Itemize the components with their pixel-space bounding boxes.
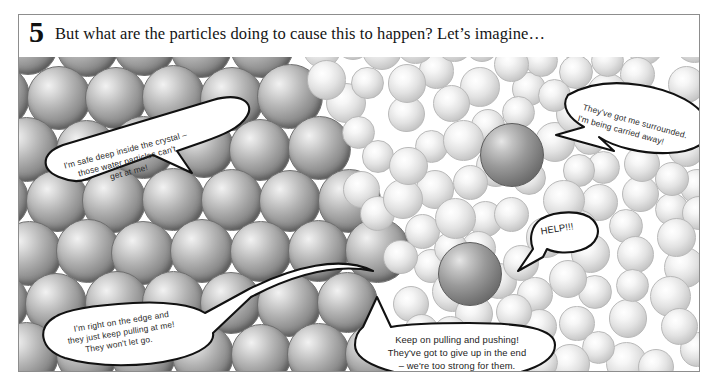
panel-caption: But what are the particles doing to caus… [55,24,545,44]
bubble-line: – we're too strong for them. [399,360,516,371]
bubble-line: Keep on pulling and pushing! [395,334,519,345]
comic-page: I'm safe deep inside the crystal – those… [0,0,713,387]
bubble-safe-inside-crystal: I'm safe deep inside the crystal – those… [27,93,267,218]
bubble-line: They've got to give up in the end [388,347,527,358]
caption-strip: 5 But what are the particles doing to ca… [19,15,699,57]
bubble-help: HELP!!! [513,207,609,277]
speech-bubble-layer: I'm safe deep inside the crystal – those… [19,15,699,371]
bubble-carried-away: They've got me surrounded. I'm being car… [544,79,700,184]
bubble-keep-pulling-and-pushing: Keep on pulling and pushing! They've got… [349,293,569,372]
comic-panel: I'm safe deep inside the crystal – those… [18,14,700,372]
bubble-on-the-edge: I'm right on the edge and they just keep… [25,253,385,372]
step-number: 5 [29,14,44,51]
